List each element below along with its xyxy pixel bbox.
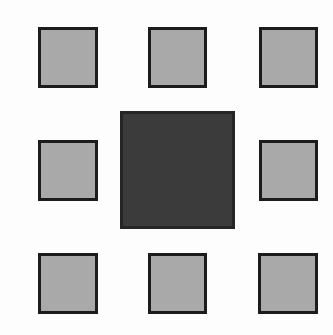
square-bottom-right bbox=[258, 253, 318, 314]
square-top-left bbox=[38, 27, 98, 88]
diagram-canvas bbox=[0, 0, 333, 335]
square-top-center bbox=[148, 27, 207, 88]
square-top-right bbox=[259, 27, 318, 88]
square-middle-left bbox=[38, 140, 98, 201]
square-bottom-center bbox=[148, 253, 207, 314]
square-middle-right bbox=[259, 140, 318, 201]
square-bottom-left bbox=[38, 253, 98, 314]
square-center bbox=[120, 111, 235, 229]
